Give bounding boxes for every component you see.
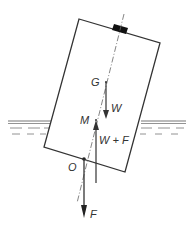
force-w-plus-f-arrowhead-icon [93, 120, 99, 130]
label-w-plus-f: W + F [99, 134, 130, 146]
floating-body-diagram: G W M W + F O F [0, 0, 196, 228]
water-surface-left [8, 121, 51, 134]
label-o: O [68, 161, 77, 173]
force-w-arrowhead-icon [103, 110, 109, 119]
label-g: G [91, 76, 100, 88]
label-w: W [111, 102, 123, 114]
label-f: F [90, 208, 98, 220]
label-m: M [80, 114, 90, 126]
force-f-arrowhead-icon [81, 205, 87, 218]
floating-body-outline [44, 19, 160, 172]
water-surface-right [140, 121, 186, 134]
point-m-marker [95, 119, 97, 121]
